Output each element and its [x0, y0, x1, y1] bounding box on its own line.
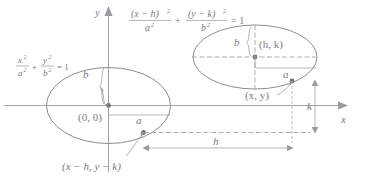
translated-eq-denom-1: a [145, 22, 150, 33]
origin-ellipse-equation: x 2 a 2 + y 2 b 2 = 1 [16, 54, 69, 78]
origin-semi-major-label: a [136, 114, 142, 126]
translated-eq-equals: = 1 [231, 15, 244, 26]
translated-eq-denom-1-exp: 2 [151, 21, 155, 28]
x-axis-label: x [340, 113, 346, 125]
translated-brace-b [247, 27, 252, 56]
translated-eq-denom-2-exp: 2 [207, 21, 211, 28]
k-measure-arrow-bottom [312, 127, 319, 134]
origin-eq-numer-1: x [17, 55, 22, 65]
translated-eq-numer-1-exp: 2 [167, 7, 171, 14]
origin-eq-numer-2: y [42, 55, 47, 65]
offset-labels: h k [213, 100, 313, 147]
origin-eq-denom-1: a [18, 68, 23, 78]
origin-eq-denom-2-exp: 2 [49, 67, 52, 73]
origin-semi-minor-label: b [83, 68, 89, 80]
origin-ellipse-labels: b (0, 0) a (x − h, y − k) [62, 68, 142, 173]
translated-center-label: (h, k) [259, 38, 283, 51]
translated-ellipse-labels: b (h, k) a (x, y) [234, 36, 289, 102]
origin-eq-plus: + [32, 62, 37, 72]
x-axis-arrowhead [338, 102, 348, 110]
ellipse-translation-diagram: y x [0, 0, 366, 178]
h-measure-arrow-left [143, 145, 150, 151]
origin-eq-denom-2: b [43, 68, 48, 78]
translated-eq-numer-1: (x − h) [131, 8, 160, 20]
origin-eq-numer-1-exp: 2 [24, 54, 27, 60]
h-measure-arrow-right [287, 145, 294, 151]
y-axis-arrowhead [105, 6, 113, 16]
y-axis-label: y [94, 6, 100, 18]
translated-eq-numer-2-exp: 2 [223, 7, 227, 14]
figure-root: y x [0, 0, 366, 178]
coordinate-axes [4, 6, 348, 172]
translated-eq-plus: + [175, 15, 181, 26]
origin-eq-equals: = 1 [57, 62, 69, 72]
translated-ellipse-group [192, 25, 318, 95]
translated-eq-numer-2: (y − k) [188, 8, 216, 20]
origin-point-label: (x − h, y − k) [62, 160, 121, 173]
origin-center-label: (0, 0) [78, 111, 102, 124]
origin-eq-denom-1-exp: 2 [24, 67, 27, 73]
translated-eq-denom-2: b [201, 22, 206, 33]
translated-semi-major-label: a [283, 68, 289, 80]
h-offset-label: h [213, 135, 219, 147]
origin-point-leader [126, 136, 141, 156]
k-offset-label: k [307, 100, 313, 112]
translated-point-label: (x, y) [245, 89, 269, 102]
origin-eq-numer-2-exp: 2 [49, 54, 52, 60]
translated-point-leader [277, 85, 290, 96]
translated-ellipse-equation: (x − h) 2 a 2 + (y − k) 2 b 2 = 1 [129, 7, 244, 33]
translated-semi-minor-label: b [234, 36, 240, 48]
k-measure-arrow-top [312, 80, 319, 87]
